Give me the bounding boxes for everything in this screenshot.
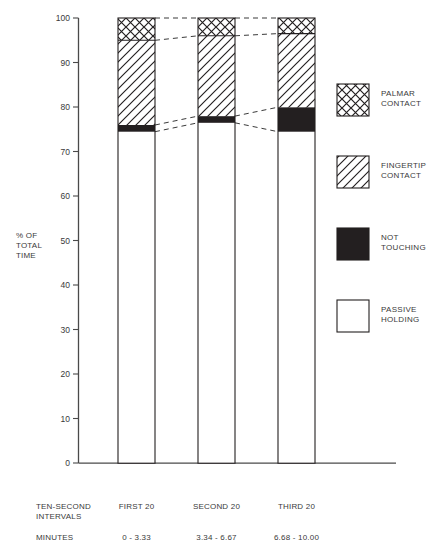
y-tick-label-10: 10: [61, 414, 71, 424]
legend-label-passive-line-2: HOLDING: [381, 315, 420, 324]
legend-label-fingertip-line-2: CONTACT: [381, 171, 421, 180]
bar-3-segment-passive-holding[interactable]: [278, 132, 315, 464]
x-minutes-third-20: 6.68 - 10.00: [274, 533, 319, 542]
bar-group-third-20[interactable]: [278, 18, 315, 463]
y-tick-label-0: 0: [65, 458, 70, 468]
y-tick-label-20: 20: [61, 369, 71, 379]
y-axis-title-line-3: TIME: [16, 251, 36, 260]
y-tick-label-80: 80: [61, 102, 71, 112]
y-tick-label-40: 40: [61, 280, 71, 290]
chart-svg: 100 90 80 70 60 50 40 30 20 10 0 % OF TO…: [0, 0, 442, 556]
x-category-second-20: SECOND 20: [193, 502, 240, 511]
legend-label-palmar-line-1: PALMAR: [381, 89, 415, 98]
connector-nottouching-1-2: [155, 123, 198, 132]
y-axis: 100 90 80 70 60 50 40 30 20 10 0 % OF TO…: [16, 13, 79, 468]
legend-swatch-cross-hatch-icon: [337, 84, 369, 116]
y-tick-label-70: 70: [61, 147, 71, 157]
y-tick-label-100: 100: [56, 13, 70, 23]
legend-item-passive-holding[interactable]: PASSIVE HOLDING: [337, 300, 420, 332]
legend-item-not-touching[interactable]: NOT TOUCHING: [337, 228, 426, 260]
y-axis-title: % OF TOTAL TIME: [16, 231, 42, 260]
y-axis-title-line-1: % OF: [16, 231, 37, 240]
y-tick-label-30: 30: [61, 325, 71, 335]
legend-swatch-solid-white-icon: [337, 300, 369, 332]
bar-1-segment-passive-holding[interactable]: [118, 132, 155, 464]
y-tick-label-50: 50: [61, 236, 71, 246]
bar-2-segment-fingertip-contact[interactable]: [198, 36, 235, 116]
connector-fingertip-2-3: [235, 107, 278, 116]
y-tick-label-60: 60: [61, 191, 71, 201]
connector-palmar-2-3: [235, 34, 278, 36]
legend-label-not-touching-line-1: NOT: [381, 233, 399, 242]
bar-1-segment-palmar-contact[interactable]: [118, 18, 155, 40]
bar-1-segment-not-touching[interactable]: [118, 125, 155, 132]
x-axis-label-row-minutes: MINUTES 0 - 3.33 3.34 - 6.67 6.68 - 10.0…: [36, 533, 319, 542]
bar-2-segment-not-touching[interactable]: [198, 116, 235, 123]
x-category-first-20: FIRST 20: [119, 502, 155, 511]
x-minutes-second-20: 3.34 - 6.67: [196, 533, 237, 542]
bar-3-segment-palmar-contact[interactable]: [278, 18, 315, 34]
legend-item-fingertip-contact[interactable]: FINGERTIP CONTACT: [337, 156, 426, 188]
bar-1-segment-fingertip-contact[interactable]: [118, 40, 155, 125]
stacked-bar-chart: 100 90 80 70 60 50 40 30 20 10 0 % OF TO…: [0, 0, 442, 556]
bar-group-first-20[interactable]: [118, 18, 155, 463]
x-minutes-first-20: 0 - 3.33: [122, 533, 151, 542]
x-category-third-20: THIRD 20: [278, 502, 316, 511]
legend-label-fingertip-line-1: FINGERTIP: [381, 161, 426, 170]
bar-group-second-20[interactable]: [198, 18, 235, 463]
legend-label-not-touching-line-2: TOUCHING: [381, 243, 426, 252]
legend-swatch-solid-black-icon: [337, 228, 369, 260]
row-label-minutes: MINUTES: [36, 533, 73, 542]
bar-3-segment-not-touching[interactable]: [278, 107, 315, 132]
x-axis-label-row-intervals: TEN-SECOND INTERVALS FIRST 20 SECOND 20 …: [36, 502, 315, 521]
bar-2-segment-passive-holding[interactable]: [198, 123, 235, 463]
y-tick-label-90: 90: [61, 58, 71, 68]
row-label-intervals: INTERVALS: [36, 512, 82, 521]
legend-item-palmar-contact[interactable]: PALMAR CONTACT: [337, 84, 421, 116]
bar-2-segment-palmar-contact[interactable]: [198, 18, 235, 36]
legend-swatch-diagonal-hatch-icon: [337, 156, 369, 188]
connector-palmar-1-2: [155, 36, 198, 41]
y-axis-title-line-2: TOTAL: [16, 241, 42, 250]
legend-label-passive-line-1: PASSIVE: [381, 305, 417, 314]
legend-label-palmar-line-2: CONTACT: [381, 99, 421, 108]
bar-3-segment-fingertip-contact[interactable]: [278, 34, 315, 108]
connector-nottouching-2-3: [235, 123, 278, 132]
legend: PALMAR CONTACT FINGERTIP CONTACT NOT TOU…: [337, 84, 426, 332]
row-label-ten-second: TEN-SECOND: [36, 502, 91, 511]
